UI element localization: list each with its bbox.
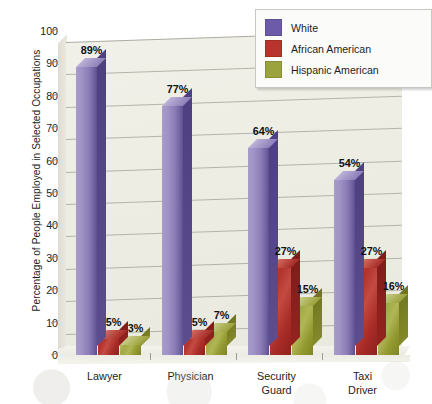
bar-side-face (97, 49, 106, 346)
bar-value-label: 15% (297, 283, 318, 295)
x-tick-mark (150, 353, 151, 360)
legend-label-hispanic-american: Hispanic American (291, 64, 379, 76)
x-tick-mark (236, 353, 237, 360)
bar-value-label: 7% (214, 309, 229, 321)
bar-value-label: 54% (339, 157, 360, 169)
chart-legend: White African American Hispanic American (255, 9, 432, 88)
legend-label-african-american: African American (291, 43, 371, 55)
bar-hispanic-american-lawyer[interactable] (120, 345, 141, 355)
legend-swatch-white (265, 19, 282, 36)
bar-side-face (183, 88, 192, 346)
x-tick-mark (322, 353, 323, 360)
bar-value-label: 5% (192, 316, 207, 328)
bar-value-label: 5% (106, 316, 121, 328)
y-tick-label: 40 (46, 219, 58, 231)
x-label-lawyer: Lawyer (87, 370, 122, 384)
x-label-taxi-driver: Taxi Driver (348, 370, 377, 397)
bar-white-physician[interactable] (162, 106, 183, 355)
bar-front-face (76, 67, 97, 355)
bar-side-face (269, 130, 278, 346)
legend-swatch-african-american (265, 40, 282, 57)
bar-value-label: 16% (383, 280, 404, 292)
bar-value-label: 3% (128, 322, 143, 334)
bar-value-label: 64% (253, 125, 274, 137)
bar-front-face (162, 106, 183, 355)
y-tick-label: 100 (40, 25, 58, 37)
legend-item[interactable]: White (265, 17, 423, 38)
legend-item[interactable]: African American (265, 38, 423, 59)
bar-white-security-guard[interactable] (248, 148, 269, 355)
bar-value-label: 27% (361, 245, 382, 257)
bar-white-lawyer[interactable] (76, 67, 97, 355)
bar-front-face (248, 148, 269, 355)
bar-front-face (120, 345, 141, 355)
y-axis-ticks: 0102030405060708090100 (22, 0, 58, 404)
x-label-security-guard: Security Guard (257, 370, 296, 397)
legend-item[interactable]: Hispanic American (265, 59, 423, 80)
x-label-physician: Physician (167, 370, 213, 384)
bar-value-label: 89% (81, 44, 102, 56)
bar-value-label: 27% (275, 245, 296, 257)
y-tick-label: 90 (46, 57, 58, 69)
bar-value-label: 77% (167, 83, 188, 95)
legend-swatch-hispanic-american (265, 61, 282, 78)
bar-white-taxi-driver[interactable] (334, 180, 355, 355)
legend-label-white: White (291, 22, 318, 34)
x-axis-labels: LawyerPhysicianSecurity GuardTaxi Driver (58, 360, 410, 404)
bar-front-face (334, 180, 355, 355)
